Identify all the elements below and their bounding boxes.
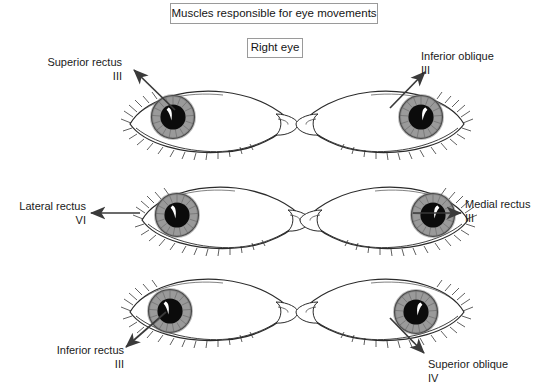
diagram-canvas: Muscles responsible for eye movements Ri… bbox=[0, 0, 538, 384]
nerve-numeral: IV bbox=[428, 372, 536, 384]
nerve-numeral: III bbox=[10, 70, 122, 84]
nerve-numeral: III bbox=[14, 358, 124, 372]
arrow-superior-oblique bbox=[390, 318, 424, 353]
label-inferior-rectus: Inferior rectus III bbox=[14, 344, 124, 371]
muscle-name: Medial rectus bbox=[465, 198, 530, 210]
muscle-name: Inferior oblique bbox=[421, 50, 494, 62]
arrow-inferior-rectus bbox=[126, 312, 166, 347]
label-medial-rectus: Medial rectus III bbox=[465, 198, 538, 225]
nerve-numeral: III bbox=[421, 64, 536, 78]
eye-illustration-superior-oblique bbox=[296, 279, 473, 348]
arrow-inferior-oblique bbox=[390, 72, 425, 108]
muscle-name: Superior oblique bbox=[428, 358, 508, 370]
nerve-numeral: III bbox=[465, 212, 538, 226]
muscle-name: Inferior rectus bbox=[57, 344, 124, 356]
arrow-superior-rectus bbox=[134, 70, 175, 110]
muscle-name: Lateral rectus bbox=[19, 200, 86, 212]
eye-illustration-medial-rectus bbox=[300, 187, 477, 256]
eye-illustration-lateral-rectus bbox=[133, 187, 310, 256]
eye-side-label: Right eye bbox=[247, 38, 303, 58]
label-lateral-rectus: Lateral rectus VI bbox=[0, 200, 86, 227]
page-title: Muscles responsible for eye movements bbox=[170, 3, 378, 24]
label-superior-oblique: Superior oblique IV bbox=[428, 358, 536, 384]
muscle-name: Superior rectus bbox=[47, 56, 122, 68]
label-superior-rectus: Superior rectus III bbox=[10, 56, 122, 83]
eye-illustration-inferior-oblique bbox=[296, 91, 473, 160]
nerve-numeral: VI bbox=[0, 214, 86, 228]
eye-illustration-inferior-rectus bbox=[121, 279, 298, 348]
eye-illustration-superior-rectus bbox=[121, 91, 298, 160]
label-inferior-oblique: Inferior oblique III bbox=[421, 50, 536, 77]
